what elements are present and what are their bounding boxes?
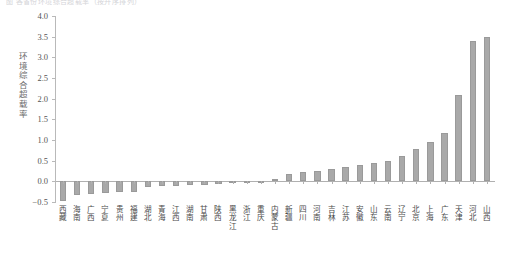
x-tick-mark [459, 181, 460, 184]
x-tick-mark [275, 181, 276, 184]
x-tick-mark [233, 181, 234, 184]
x-tick-label: 新疆 [284, 206, 295, 223]
bar [286, 174, 292, 181]
x-tick-label: 湖南 [185, 206, 196, 223]
x-tick-label: 江西 [171, 206, 182, 223]
x-tick-mark [473, 181, 474, 184]
x-tick-label: 海南 [72, 206, 83, 223]
x-tick-mark [148, 181, 149, 184]
x-tick-mark [430, 181, 431, 184]
x-tick-label: 黑龙江 [227, 206, 238, 231]
x-tick-label: 浙江 [241, 206, 252, 223]
x-tick-label: 福建 [128, 206, 139, 223]
x-tick-mark [162, 181, 163, 184]
x-tick-mark [402, 181, 403, 184]
x-tick-label: 山西 [481, 206, 492, 223]
x-axis-tick-labels: 西藏海南广西宁夏贵州福建湖北青海江西湖南甘肃陕西黑龙江浙江重庆内蒙古新疆四川河南… [56, 206, 495, 260]
x-tick-label: 吉林 [326, 206, 337, 223]
x-tick-label: 江苏 [340, 206, 351, 223]
x-tick-label: 贵州 [114, 206, 125, 223]
bar [300, 172, 306, 181]
y-tick-label: 4.0 [22, 11, 48, 21]
bar [484, 37, 490, 182]
x-tick-label: 山东 [368, 206, 379, 223]
x-tick-label: 陕西 [213, 206, 224, 223]
y-tick-label: 0.5 [22, 156, 48, 166]
x-tick-mark [247, 181, 248, 184]
y-tick-label: 1.0 [22, 135, 48, 145]
x-tick-mark [120, 181, 121, 184]
x-tick-mark [176, 181, 177, 184]
x-tick-label: 天津 [453, 206, 464, 223]
bar [342, 167, 348, 181]
y-tick-label: 2.5 [22, 73, 48, 83]
x-tick-mark [346, 181, 347, 184]
bar [413, 149, 419, 181]
bar-series [56, 16, 495, 202]
y-tick-mark [52, 161, 56, 162]
x-tick-mark [360, 181, 361, 184]
y-tick-mark [52, 78, 56, 79]
y-tick-mark [52, 181, 56, 182]
y-tick-mark [52, 99, 56, 100]
x-tick-mark [204, 181, 205, 184]
x-tick-label: 四川 [298, 206, 309, 223]
x-tick-mark [105, 181, 106, 184]
y-tick-mark [52, 37, 56, 38]
x-tick-mark [190, 181, 191, 184]
y-tick-label: 3.0 [22, 52, 48, 62]
x-tick-label: 北京 [411, 206, 422, 223]
bar [371, 163, 377, 181]
x-tick-label: 宁夏 [100, 206, 111, 223]
x-tick-mark [134, 181, 135, 184]
x-tick-mark [317, 181, 318, 184]
x-tick-mark [289, 181, 290, 184]
x-tick-label: 河北 [467, 206, 478, 223]
x-tick-mark [218, 181, 219, 184]
plot-area [55, 16, 495, 202]
x-tick-mark [63, 181, 64, 184]
x-tick-label: 广西 [86, 206, 97, 223]
y-tick-mark [52, 16, 56, 17]
x-tick-mark [416, 181, 417, 184]
y-tick-label: 0.0 [22, 176, 48, 186]
x-tick-label: 辽宁 [397, 206, 408, 223]
x-tick-label: 安徽 [354, 206, 365, 223]
x-tick-mark [388, 181, 389, 184]
bar [328, 169, 334, 181]
x-tick-mark [77, 181, 78, 184]
x-tick-mark [487, 181, 488, 184]
y-tick-label: 2.0 [22, 94, 48, 104]
x-tick-label: 甘肃 [199, 206, 210, 223]
y-tick-mark [52, 57, 56, 58]
y-tick-label: −0.5 [22, 197, 48, 207]
y-tick-label: 1.5 [22, 114, 48, 124]
x-tick-mark [374, 181, 375, 184]
bar [399, 156, 405, 182]
x-tick-mark [303, 181, 304, 184]
x-tick-label: 青海 [156, 206, 167, 223]
x-tick-label: 西藏 [58, 206, 69, 223]
bar [470, 41, 476, 182]
y-tick-mark [52, 119, 56, 120]
x-tick-label: 内蒙古 [270, 206, 281, 231]
x-tick-label: 重庆 [255, 206, 266, 223]
x-tick-mark [445, 181, 446, 184]
chart-figure: 图 各省份环境综合超载率（按升序排列） 环境综合超载率 4.03.53.02.5… [0, 0, 510, 260]
x-tick-label: 上海 [425, 206, 436, 223]
y-tick-mark [52, 140, 56, 141]
x-tick-mark [91, 181, 92, 184]
bar [385, 161, 391, 182]
x-tick-label: 河南 [312, 206, 323, 223]
bar [427, 142, 433, 181]
figure-caption: 图 各省份环境综合超载率（按升序排列） [6, 0, 426, 5]
x-tick-label: 湖北 [142, 206, 153, 223]
y-tick-label: 3.5 [22, 32, 48, 42]
bar [357, 165, 363, 182]
x-tick-mark [261, 181, 262, 184]
bar [441, 133, 447, 182]
bar [314, 171, 320, 182]
bar [455, 95, 461, 182]
y-axis-tick-labels: 4.03.53.02.52.01.51.00.50.0−0.5 [22, 0, 48, 260]
x-tick-mark [332, 181, 333, 184]
